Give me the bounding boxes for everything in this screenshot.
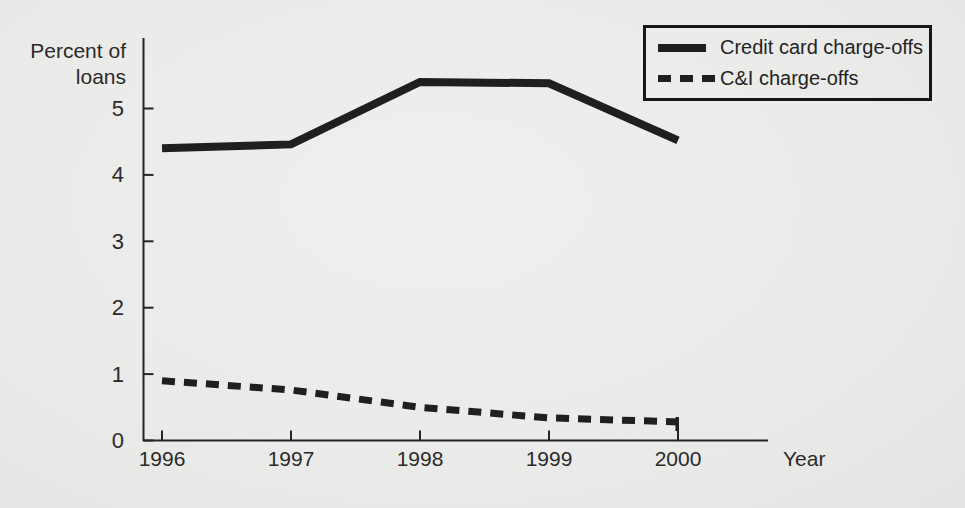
solid-line-swatch: [658, 44, 706, 52]
legend-item-credit-card: Credit card charge-offs: [658, 35, 929, 61]
series-lines: [162, 82, 678, 422]
legend-box: Credit card charge-offs C&I charge-offs: [643, 25, 932, 101]
y-tick-label: 0: [112, 428, 124, 453]
y-axis-title-line2: loans: [76, 65, 126, 88]
y-tick-label: 3: [112, 229, 124, 254]
x-tick-label: 1998: [397, 447, 444, 470]
scanned-chart-page: 012345 19961997199819992000 Percent of l…: [0, 0, 965, 508]
y-tick-label: 5: [112, 96, 124, 121]
legend-item-ci: C&I charge-offs: [658, 65, 929, 91]
y-tick-label: 4: [112, 162, 124, 187]
dashed-line-swatch: [658, 75, 715, 82]
x-tick-label: 1997: [268, 447, 315, 470]
y-axis-title-line1: Percent of: [30, 39, 126, 62]
credit-card-chargeoffs-line: [162, 82, 678, 148]
y-tick-label: 2: [112, 295, 124, 320]
ci-chargeoffs-line: [162, 381, 678, 422]
legend-label-credit-card: Credit card charge-offs: [720, 36, 923, 59]
ci-line-endcap: [676, 417, 680, 431]
x-tick-label: 2000: [655, 447, 702, 470]
y-axis-ticks: 012345: [112, 96, 154, 453]
legend-label-ci: C&I charge-offs: [720, 67, 859, 90]
x-tick-label: 1999: [526, 447, 573, 470]
x-axis-title: Year: [783, 447, 825, 470]
y-tick-label: 1: [112, 362, 124, 387]
x-tick-label: 1996: [139, 447, 186, 470]
x-axis-ticks: 19961997199819992000: [139, 431, 702, 471]
